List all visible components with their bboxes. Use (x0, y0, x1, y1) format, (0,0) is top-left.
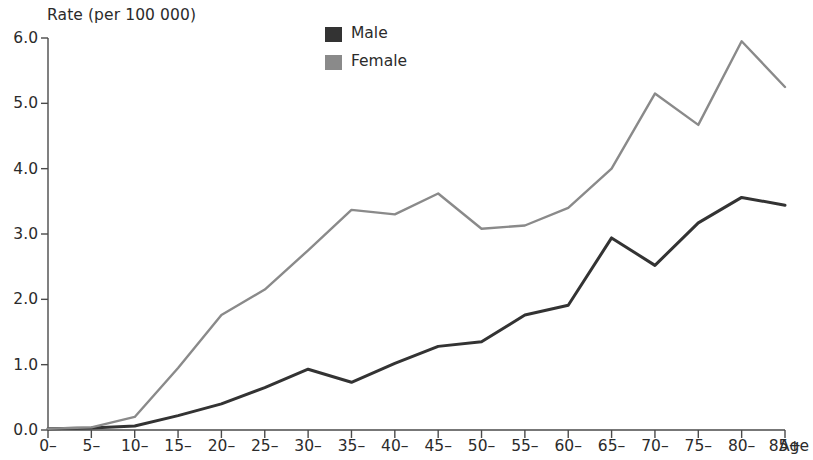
y-tick-label: 3.0 (4, 225, 38, 243)
x-tick-label: 60– (554, 437, 581, 455)
x-tick-label: 15– (164, 437, 191, 455)
y-tick-label: 0.0 (4, 421, 38, 439)
x-tick-label: 0– (39, 437, 57, 455)
y-tick-label: 4.0 (4, 160, 38, 178)
rate-by-age-line-chart: Rate (per 100 000) Male Female 0.01.02.0… (0, 0, 813, 460)
x-tick-label: 75– (685, 437, 712, 455)
x-tick-label: 20– (208, 437, 235, 455)
y-tick-label: 1.0 (4, 356, 38, 374)
x-tick-label: 55– (511, 437, 538, 455)
y-tick-label: 6.0 (4, 29, 38, 47)
x-tick-label: 50– (468, 437, 495, 455)
x-tick-label: 10– (121, 437, 148, 455)
x-tick-label: 30– (294, 437, 321, 455)
x-tick-label: 35– (338, 437, 365, 455)
x-tick-label: 40– (381, 437, 408, 455)
series-line-male (48, 197, 785, 428)
x-tick-label: 70– (641, 437, 668, 455)
series-line-female (48, 41, 785, 428)
x-tick-label: 5– (83, 437, 101, 455)
axis-lines (41, 38, 785, 438)
x-tick-label: 80– (728, 437, 755, 455)
plot-area (0, 0, 813, 460)
y-tick-label: 2.0 (4, 290, 38, 308)
x-axis-title: Age (779, 437, 809, 455)
y-tick-label: 5.0 (4, 94, 38, 112)
x-tick-label: 25– (251, 437, 278, 455)
data-series-layer (48, 41, 785, 428)
x-tick-label: 65– (598, 437, 625, 455)
x-tick-label: 45– (424, 437, 451, 455)
